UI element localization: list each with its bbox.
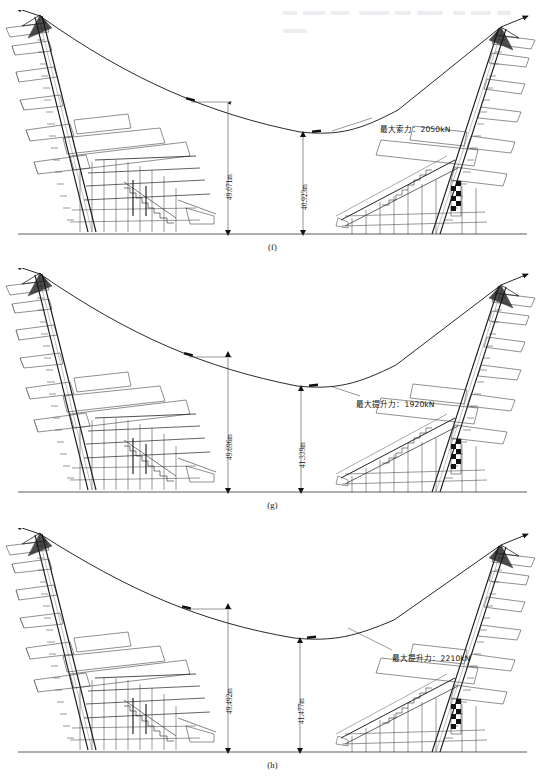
panel-caption-g: (g)	[0, 500, 545, 510]
cable-right-segment	[300, 27, 501, 133]
left-backstay-arrow	[16, 528, 40, 534]
cable-left-segment	[40, 534, 294, 638]
cable-left-segment	[40, 274, 297, 386]
cable-clamp-left	[186, 97, 195, 102]
panel-caption-h: (h)	[0, 760, 545, 770]
dimension-label-left-f: 49.071m	[226, 174, 234, 200]
panel-caption-f: (f)	[0, 242, 545, 252]
cable-clamp-right	[312, 129, 321, 133]
right-grandstand	[336, 126, 487, 234]
left-tower-mast	[6, 15, 96, 232]
left-backstay-arrow	[16, 10, 40, 16]
left-grandstand	[63, 114, 216, 232]
panel-g: 最大提升力：1920kN 49.696m 41.339m (g)	[0, 268, 545, 516]
dimension-label-right-f: 40.923m	[301, 184, 309, 210]
cable-clamp-right	[309, 383, 318, 387]
force-leader-line	[348, 628, 392, 650]
dimension-label-right-h: 41.477m	[298, 698, 306, 724]
dimension-label-left-g: 49.696m	[226, 434, 234, 460]
dimension-label-right-g: 41.339m	[299, 442, 307, 468]
cable-right-segment	[294, 545, 501, 639]
force-label-g: 最大提升力：1920kN	[356, 398, 435, 409]
panel-f-drawing	[0, 10, 545, 240]
cable-clamp-left	[184, 352, 193, 357]
dimension-label-left-h: 49.492m	[226, 688, 234, 714]
panel-g-drawing	[0, 268, 545, 498]
force-label-f: 最大索力：2050kN	[380, 123, 451, 134]
figure-page: 最大索力：2050kN 49.071m 40.923m (f)	[0, 0, 545, 776]
cropped-header-strip	[280, 1, 542, 10]
cable-left-segment	[40, 16, 300, 132]
panel-h-drawing	[0, 528, 545, 758]
panel-h: 最大提升力：2210kN 49.492m 41.477m (h)	[0, 528, 545, 776]
force-label-h: 最大提升力：2210kN	[392, 652, 471, 663]
right-backstay-arrow	[501, 274, 528, 285]
right-backstay-arrow	[501, 16, 528, 27]
cable-right-segment	[297, 285, 501, 387]
left-backstay-arrow	[16, 268, 40, 274]
panel-f: 最大索力：2050kN 49.071m 40.923m (f)	[0, 10, 545, 258]
force-leader-line	[330, 386, 360, 396]
right-backstay-arrow	[501, 534, 528, 545]
cable-clamp-right	[307, 635, 316, 639]
